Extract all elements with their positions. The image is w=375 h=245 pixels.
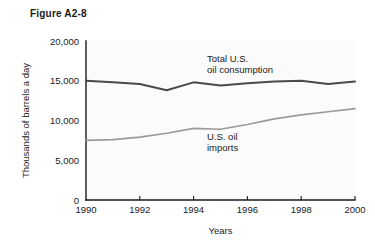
line-chart: 05,00010,00015,00020,000 199019921994199…: [0, 0, 375, 245]
y-tick-label: 15,000: [50, 75, 79, 86]
y-axis-tick-labels: 05,00010,00015,00020,000: [50, 36, 79, 206]
y-tick-label: 10,000: [50, 115, 79, 126]
series-label-imports: U.S. oilimports: [207, 131, 238, 153]
series-label-line: oil consumption: [207, 64, 273, 75]
x-axis-tick-labels: 199019921994199619982000: [75, 204, 365, 215]
x-tick-label: 2000: [344, 204, 365, 215]
x-tick-label: 1996: [237, 204, 258, 215]
x-tick-label: 1998: [291, 204, 312, 215]
series-label-line: U.S. oil: [207, 131, 238, 142]
series-label-line: Total U.S.: [207, 53, 248, 64]
x-tick-label: 1992: [129, 204, 150, 215]
x-tick-label: 1990: [75, 204, 96, 215]
figure-container: Figure A2-8 05,00010,00015,00020,000 199…: [0, 0, 375, 245]
y-tick-label: 5,000: [55, 155, 79, 166]
series-label-line: imports: [207, 142, 238, 153]
y-tick-label: 20,000: [50, 36, 79, 47]
y-axis-title: Thousands of barrels a day: [20, 63, 31, 178]
x-tick-label: 1994: [183, 204, 204, 215]
x-axis-title: Years: [209, 225, 233, 236]
